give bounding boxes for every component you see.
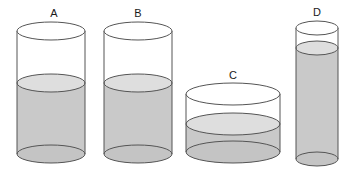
cylinder-c-liquid-surface: [186, 113, 280, 135]
cylinder-diagram-svg: ABCD: [0, 0, 351, 179]
cylinder-label-b: B: [134, 7, 141, 19]
cylinder-d: D: [296, 6, 338, 166]
cylinder-a-rim-ellipse: [17, 22, 85, 40]
cylinder-label-d: D: [313, 6, 321, 18]
cylinder-d-liquid-body: [296, 48, 338, 166]
cylinder-a: A: [17, 7, 85, 163]
cylinder-d-liquid-surface: [296, 41, 338, 55]
cylinder-d-base-ellipse: [296, 152, 338, 166]
cylinder-a-liquid-surface: [17, 74, 85, 92]
cylinder-figure: ABCD: [0, 0, 351, 179]
cylinder-b-base-ellipse: [104, 145, 172, 163]
cylinder-b-liquid-surface: [104, 74, 172, 92]
cylinder-c-rim-ellipse: [186, 83, 280, 105]
cylinder-c: C: [186, 69, 280, 163]
cylinder-d-rim-ellipse: [296, 21, 338, 35]
cylinder-label-c: C: [229, 69, 237, 81]
cylinder-c-base-ellipse: [186, 141, 280, 163]
cylinder-label-a: A: [50, 7, 58, 19]
cylinder-b: B: [104, 7, 172, 163]
cylinder-a-base-ellipse: [17, 145, 85, 163]
cylinder-b-rim-ellipse: [104, 22, 172, 40]
